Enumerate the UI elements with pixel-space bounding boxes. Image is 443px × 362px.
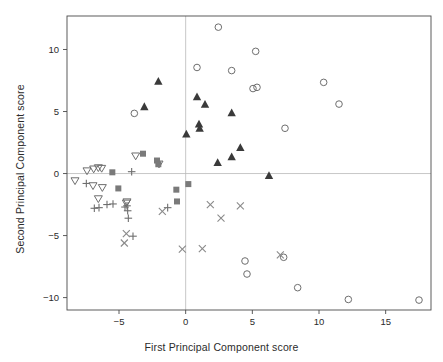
data-point-plus [164, 204, 172, 212]
data-point-plus [103, 201, 111, 209]
data-point-filled-triangle-up [182, 130, 190, 138]
data-point-cross [179, 246, 186, 253]
data-point-filled-triangle-up [193, 92, 201, 100]
data-point-filled-triangle-up [236, 143, 244, 151]
data-points-layer [71, 24, 422, 304]
data-point-open-triangle-down [71, 178, 79, 185]
data-point-plus [109, 200, 117, 208]
series-plus [83, 168, 172, 240]
svg-text:10: 10 [314, 316, 325, 327]
data-point-filled-triangle-up [213, 158, 221, 166]
data-point-open-circle [294, 284, 301, 291]
series-open-triangle-down [71, 153, 163, 207]
data-point-open-triangle-down [132, 153, 140, 160]
svg-text:5: 5 [250, 316, 255, 327]
svg-text:10: 10 [48, 44, 59, 55]
data-point-open-circle [252, 48, 259, 55]
data-point-plus [95, 204, 103, 212]
data-point-filled-square [115, 185, 121, 191]
x-axis-title: First Principal Component score [0, 341, 443, 353]
data-point-open-circle [345, 296, 352, 303]
data-point-cross [199, 245, 206, 252]
data-point-open-circle [282, 125, 289, 132]
data-point-cross [159, 208, 166, 215]
data-point-open-triangle-down [98, 185, 106, 192]
data-point-open-circle [242, 258, 249, 265]
data-point-cross [218, 215, 225, 222]
data-point-open-circle [416, 297, 423, 304]
data-point-cross [237, 202, 244, 209]
series-cross [121, 201, 284, 258]
data-point-open-triangle-down [94, 196, 102, 203]
data-point-filled-square [155, 161, 161, 167]
series-open-circle [131, 24, 422, 304]
data-point-cross [123, 230, 130, 237]
svg-text:0: 0 [183, 316, 188, 327]
svg-text:0: 0 [54, 168, 59, 179]
data-point-filled-triangle-up [227, 153, 235, 161]
svg-text:15: 15 [380, 316, 391, 327]
data-point-open-circle [320, 79, 327, 86]
reference-lines [67, 16, 431, 310]
data-point-plus [83, 180, 91, 188]
data-point-open-circle [131, 110, 138, 117]
data-point-open-circle [280, 254, 287, 261]
data-point-open-circle [336, 101, 343, 108]
plot-frame [67, 16, 431, 310]
data-point-open-circle [244, 271, 251, 278]
scatter-plot-figure: −5051015−10−50510 First Principal Compon… [0, 0, 443, 362]
data-point-open-circle [194, 64, 201, 71]
data-point-open-circle [254, 84, 261, 91]
data-point-plus [129, 232, 137, 240]
data-point-plus [91, 204, 99, 212]
data-point-filled-square [174, 198, 180, 204]
data-point-open-circle [228, 67, 235, 74]
data-point-filled-square [185, 181, 191, 187]
data-point-filled-triangle-up [201, 100, 209, 108]
series-filled-square [109, 151, 191, 205]
data-point-filled-triangle-up [140, 102, 148, 110]
svg-text:−5: −5 [114, 316, 125, 327]
data-point-open-triangle-down [90, 166, 98, 173]
data-point-filled-square [173, 187, 179, 193]
data-point-open-circle [215, 24, 222, 31]
svg-text:−10: −10 [43, 292, 59, 303]
data-point-filled-square [140, 151, 146, 157]
plot-canvas: −5051015−10−50510 [0, 0, 443, 362]
svg-text:−5: −5 [48, 230, 59, 241]
svg-text:5: 5 [54, 106, 59, 117]
data-point-filled-triangle-up [265, 171, 273, 179]
data-point-open-triangle-down [89, 183, 97, 190]
data-point-plus [128, 168, 136, 176]
y-axis-title: Second Principal Component score [14, 64, 26, 274]
data-point-cross [207, 201, 214, 208]
data-point-filled-square [109, 169, 115, 175]
data-point-filled-triangle-up [154, 77, 162, 85]
axis-ticks [63, 49, 386, 314]
data-point-open-circle [250, 85, 257, 92]
data-point-plus [125, 214, 133, 222]
data-point-filled-triangle-up [227, 109, 235, 117]
data-point-cross [121, 240, 128, 247]
